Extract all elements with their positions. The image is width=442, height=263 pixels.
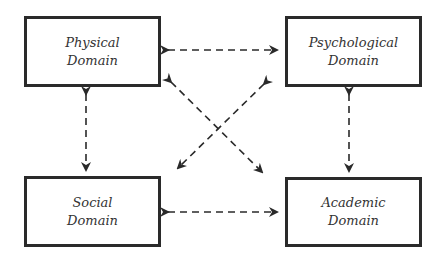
academic-domain-node: Academic Domain — [285, 177, 422, 247]
node-label-line1: Psychological — [309, 34, 399, 52]
node-label-line2: Domain — [328, 212, 379, 230]
node-label-line2: Domain — [67, 52, 118, 70]
physical-domain-node: Physical Domain — [24, 16, 161, 87]
node-label-line1: Physical — [65, 34, 119, 52]
node-label-line1: Academic — [321, 194, 385, 212]
arrow-psychological-social — [178, 84, 264, 168]
node-label-line2: Domain — [67, 212, 118, 230]
social-domain-node: Social Domain — [24, 176, 161, 247]
node-label-line1: Social — [72, 194, 112, 212]
arrow-physical-academic — [171, 82, 262, 172]
psychological-domain-node: Psychological Domain — [285, 16, 422, 87]
node-label-line2: Domain — [328, 52, 379, 70]
